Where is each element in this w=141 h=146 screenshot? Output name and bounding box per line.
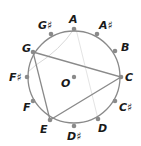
note-label: F♯ <box>9 71 22 84</box>
note-point <box>31 50 36 55</box>
note-label: A <box>68 13 78 26</box>
note-label: C♯ <box>119 101 132 114</box>
triangle-gce <box>33 52 121 120</box>
note-label: D♯ <box>67 130 81 143</box>
circle-diagram: AA♯BCC♯DD♯EFF♯GG♯ O <box>0 0 141 146</box>
note-label: A♯ <box>98 19 113 32</box>
note-point <box>119 75 124 80</box>
note-point <box>25 75 30 80</box>
note-label: G♯ <box>38 19 52 32</box>
note-point <box>31 99 36 104</box>
note-label: E <box>40 123 48 136</box>
note-label: C <box>125 71 133 84</box>
note-point <box>48 118 53 123</box>
center-label: O <box>61 77 70 90</box>
note-label: D <box>98 122 107 135</box>
note-point <box>72 27 77 32</box>
note-point <box>49 32 54 37</box>
note-label: G <box>22 42 31 55</box>
note-point <box>95 32 100 37</box>
note-point <box>72 124 77 129</box>
note-point <box>113 49 118 54</box>
note-point <box>96 117 101 122</box>
faint-line-a-d <box>76 29 98 119</box>
note-label: B <box>121 41 129 54</box>
note-label: F <box>23 101 31 114</box>
note-point <box>113 99 118 104</box>
center-point <box>72 75 76 79</box>
